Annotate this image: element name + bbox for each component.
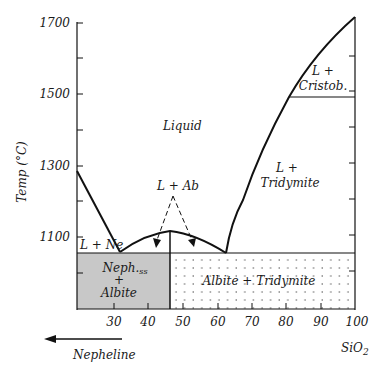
y-tick-1100: 1100 <box>39 230 70 244</box>
neph-albite-albite: Albite <box>100 286 137 300</box>
y-tick-1700: 1700 <box>39 16 70 30</box>
y-tick-1500: 1500 <box>39 87 70 101</box>
y-axis-title: Temp (°C) <box>15 141 29 203</box>
albite-liquidus <box>120 231 226 253</box>
x-tick-30: 30 <box>106 315 122 329</box>
x-axis-title-main: SiO <box>341 341 363 355</box>
l-cristob-label-line1: L + <box>311 64 334 78</box>
liquid-label: Liquid <box>162 119 202 133</box>
l-ne-label: L + Ne <box>79 238 123 252</box>
x-tick-50: 50 <box>175 315 191 329</box>
x-tick-70: 70 <box>244 315 260 329</box>
neph-albite-plus: + <box>114 273 124 287</box>
phase-diagram: 1700 1500 1300 1100 30 40 50 60 70 80 90… <box>0 0 381 377</box>
l-cristob-label-line2: Cristob. <box>299 79 347 93</box>
albite-tridymite-label: Albite + Tridymite <box>202 274 316 288</box>
y-ticks-right <box>349 56 355 271</box>
l-tridymite-label-line2: Tridymite <box>260 176 319 190</box>
y-tick-1300: 1300 <box>39 159 70 173</box>
x-tick-90: 90 <box>313 315 329 329</box>
y-ticks-left <box>77 23 83 273</box>
silica-liquidus <box>226 17 355 253</box>
l-ab-pointer-arrows <box>157 196 192 240</box>
nepheline-label: Nepheline <box>72 348 136 362</box>
nepheline-arrow-head <box>44 335 56 343</box>
x-axis-title: SiO2 <box>341 341 369 357</box>
l-tridymite-label-line1: L + <box>275 161 298 175</box>
arrowhead-left <box>153 238 161 248</box>
x-tick-100: 100 <box>346 315 369 329</box>
ss-subscript: ss <box>139 267 147 276</box>
x-axis-title-sub: 2 <box>362 347 369 357</box>
x-tick-60: 60 <box>210 315 226 329</box>
l-ab-label: L + Ab <box>156 179 199 193</box>
arrowhead-right <box>188 238 196 247</box>
x-tick-40: 40 <box>139 315 156 329</box>
x-tick-80: 80 <box>278 315 294 329</box>
